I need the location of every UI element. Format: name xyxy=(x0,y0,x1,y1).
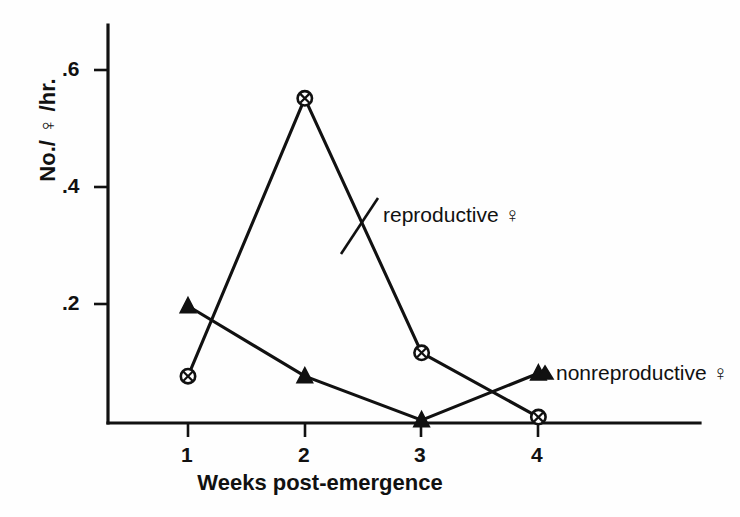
series-line-1 xyxy=(188,306,538,420)
x-tick-label-1: 1 xyxy=(181,443,193,467)
data-point-0-2 xyxy=(414,346,428,360)
x-axis-title: Weeks post-emergence xyxy=(197,470,442,495)
data-point-0-1 xyxy=(298,91,312,105)
data-point-1-0 xyxy=(180,298,196,313)
x-axis-title-wrapper: Weeks post-emergence xyxy=(0,470,640,496)
series-line-0 xyxy=(188,98,538,417)
marker-triangle-1-1 xyxy=(297,368,313,383)
y-tick-label-0.2: .2 xyxy=(62,291,80,315)
data-point-0-3 xyxy=(531,410,545,424)
chart-plot-area xyxy=(0,0,740,517)
data-point-0-0 xyxy=(181,369,195,383)
x-tick-label-4: 4 xyxy=(531,443,543,467)
marker-triangle-1-0 xyxy=(180,298,196,313)
series-label-reproductive: reproductive ♀ xyxy=(383,203,520,227)
chart-figure: .6 .4 .2 1 2 3 4 No./ ♀ /hr. Weeks post-… xyxy=(0,0,740,517)
y-axis-title-wrapper: No./ ♀ /hr. xyxy=(28,50,68,210)
series-layer xyxy=(180,91,546,427)
x-tick-label-2: 2 xyxy=(298,443,310,467)
series-label-nonreproductive: nonreproductive ♀ xyxy=(556,361,728,385)
data-point-1-1 xyxy=(297,368,313,383)
x-tick-label-3: 3 xyxy=(414,443,426,467)
y-axis-title: No./ ♀ /hr. xyxy=(35,78,61,181)
